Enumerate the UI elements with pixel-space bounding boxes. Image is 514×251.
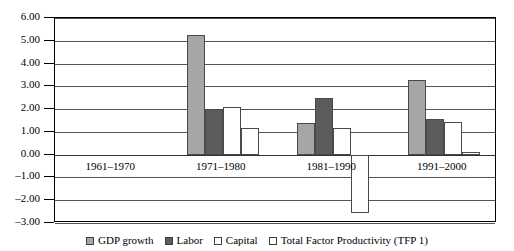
legend-swatch-icon (269, 237, 277, 245)
legend-item: Capital (214, 234, 258, 247)
gridline (55, 86, 495, 87)
y-axis-label: –3.00 (0, 216, 44, 227)
legend-label: Labor (177, 234, 203, 247)
gridline (55, 155, 495, 156)
y-axis-tick (44, 108, 54, 109)
bar (333, 128, 351, 154)
y-axis-label: 3.00 (0, 79, 44, 90)
category-label: 1961–1970 (55, 160, 166, 172)
y-axis-tick (44, 85, 54, 86)
y-axis-label: 4.00 (0, 57, 44, 68)
gridline (55, 64, 495, 65)
legend-label: Total Factor Productivity (TFP 1) (281, 234, 428, 247)
y-axis-tick (44, 176, 54, 177)
legend-swatch-icon (165, 237, 173, 245)
bar (408, 80, 426, 154)
y-axis-tick (44, 222, 54, 223)
y-axis-label: 1.00 (0, 125, 44, 136)
y-axis-tick (44, 17, 54, 18)
legend-item: Total Factor Productivity (TFP 1) (269, 234, 428, 247)
bar (462, 152, 480, 154)
bar (315, 98, 333, 154)
y-axis-tick (44, 199, 54, 200)
legend-swatch-icon (86, 237, 94, 245)
legend-item: GDP growth (86, 234, 154, 247)
gridline (55, 177, 495, 178)
growth-accounting-bar-chart: 6.005.004.003.002.001.000.00–1.00–2.00–3… (0, 0, 514, 251)
gridline (55, 18, 495, 19)
y-axis-label: 5.00 (0, 34, 44, 45)
legend-swatch-icon (214, 237, 222, 245)
chart-legend: GDP growthLaborCapitalTotal Factor Produ… (0, 234, 514, 247)
bar (187, 35, 205, 155)
legend-label: GDP growth (98, 234, 154, 247)
bar (205, 109, 223, 155)
bar (426, 119, 444, 155)
y-axis-label: –2.00 (0, 193, 44, 204)
gridline (55, 109, 495, 110)
y-axis-label: 2.00 (0, 102, 44, 113)
category-label: 1981–1990 (276, 160, 387, 172)
y-axis-tick (44, 131, 54, 132)
y-axis-tick (44, 154, 54, 155)
y-axis-label: 0.00 (0, 148, 44, 159)
y-axis-tick (44, 40, 54, 41)
y-axis-label: –1.00 (0, 170, 44, 181)
bar (223, 107, 241, 155)
category-label: 1991–2000 (387, 160, 498, 172)
bar (297, 123, 315, 155)
plot-area: 1961–19701971–19801981–19901991–2000 (54, 17, 496, 222)
gridline (55, 200, 495, 201)
bar (444, 122, 462, 155)
y-axis-label: 6.00 (0, 11, 44, 22)
category-label: 1971–1980 (166, 160, 277, 172)
y-axis-tick (44, 63, 54, 64)
legend-label: Capital (226, 234, 258, 247)
bar (241, 128, 259, 154)
gridline (55, 223, 495, 224)
gridline (55, 41, 495, 42)
legend-item: Labor (165, 234, 203, 247)
